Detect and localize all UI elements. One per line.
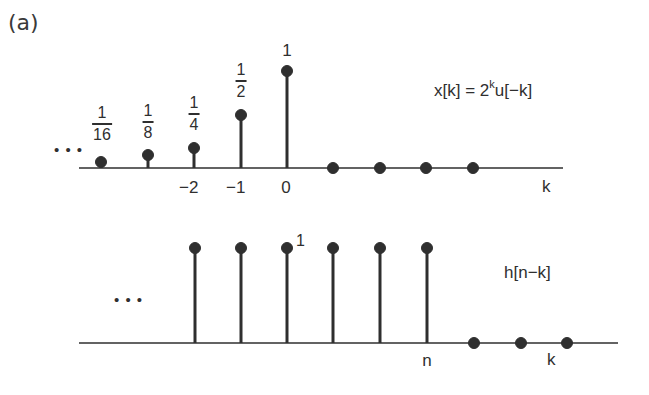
value-label-1-2: 12 [236, 62, 247, 100]
denominator: 2 [236, 84, 247, 100]
bottom-ellipsis: • • • [114, 292, 143, 307]
denominator: 16 [92, 127, 112, 143]
bottom-value-label: 1 [296, 233, 305, 249]
value-label-1-16: 116 [92, 105, 112, 143]
tick-label-0: 0 [281, 179, 290, 196]
top-axis-label: k [542, 178, 551, 195]
value-label-1-8: 18 [143, 103, 154, 141]
title-base: x[k] = 2 [434, 81, 489, 100]
numerator: 1 [143, 103, 154, 119]
denominator: 4 [189, 117, 200, 133]
bottom-plot [79, 243, 618, 349]
numerator: 1 [189, 95, 200, 111]
top-plot-title: x[k] = 2ku[−k] [434, 79, 532, 99]
numerator: 1 [97, 105, 108, 121]
denominator: 8 [143, 125, 154, 141]
value-label-1-4: 14 [189, 95, 200, 133]
stem-plots [0, 0, 649, 395]
numerator: 1 [236, 62, 247, 78]
tick-label-minus-1: −1 [226, 179, 245, 196]
bottom-axis-label: k [547, 351, 556, 368]
tick-label-minus-2: −2 [179, 179, 198, 196]
title-rest: u[−k] [495, 81, 532, 100]
bottom-plot-title: h[n−k] [504, 264, 551, 281]
top-ellipsis: • • • [54, 142, 83, 157]
n-label: n [422, 352, 431, 369]
value-label-1: 1 [282, 42, 291, 59]
